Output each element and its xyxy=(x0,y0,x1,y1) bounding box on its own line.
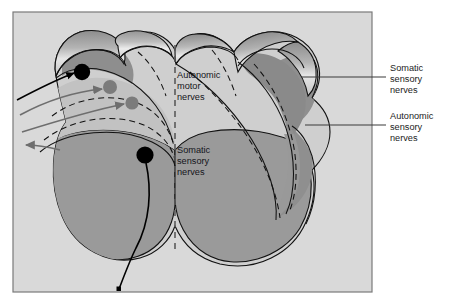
autonomic-motor-line-1: Autonomic xyxy=(177,70,221,80)
autonomic-sensory-line-2: sensory xyxy=(390,122,423,132)
callout-label-group: Somatic sensory nerves Autonomic sensory… xyxy=(390,63,436,143)
figure-container: Autonomic motor nerves Somatic sensory n… xyxy=(0,0,453,306)
autonomic-sensory-nerves-label: Autonomic sensory nerves xyxy=(390,111,436,143)
somatic-sensory-internal-line-2: sensory xyxy=(177,156,210,166)
autonomic-sensory-line-3: nerves xyxy=(390,133,418,143)
somatic-sensory-line-1: Somatic xyxy=(390,63,424,73)
autonomic-motor-line-3: nerves xyxy=(177,92,205,102)
autonomic-motor-line-2: motor xyxy=(177,81,201,91)
somatic-sensory-internal-line-3: nerves xyxy=(177,167,205,177)
gray-dot-upper-cell-body xyxy=(103,80,117,94)
somatic-sensory-nerves-label: Somatic sensory nerves xyxy=(390,63,426,95)
somatic-sensory-line-2: sensory xyxy=(390,74,423,84)
gray-dot-lower-cell-body xyxy=(125,96,138,109)
spinal-cord-diagram: Autonomic motor nerves Somatic sensory n… xyxy=(0,0,453,306)
ventral-root-terminal xyxy=(117,287,122,292)
black-dot-ventral-cell-body xyxy=(136,146,153,163)
somatic-sensory-line-3: nerves xyxy=(390,85,418,95)
somatic-sensory-internal-line-1: Somatic xyxy=(177,145,211,155)
black-dot-dorsal-cell-body xyxy=(74,64,90,80)
autonomic-sensory-line-1: Autonomic xyxy=(390,111,434,121)
